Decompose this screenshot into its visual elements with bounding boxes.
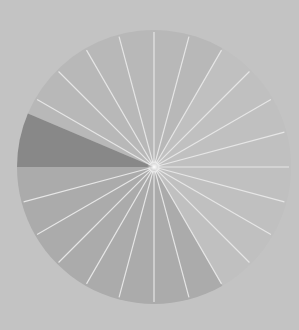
radial-sector-disc xyxy=(0,0,299,330)
center-glow xyxy=(147,160,161,174)
